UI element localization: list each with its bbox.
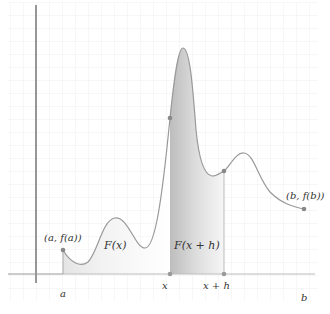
tick-label-xh: x + h bbox=[203, 280, 230, 291]
label-region-right: F(x + h) bbox=[173, 239, 220, 252]
integral-diagram: (a, f(a)) (b, f(b)) F(x) F(x + h) a x x … bbox=[0, 0, 330, 314]
point-a bbox=[61, 248, 66, 253]
tick-label-a: a bbox=[60, 288, 66, 299]
label-region-left: F(x) bbox=[103, 239, 126, 252]
label-end-point: (b, f(b)) bbox=[286, 190, 325, 201]
point-x-axis bbox=[168, 272, 173, 277]
point-xh-curve bbox=[222, 169, 227, 174]
tick-label-x: x bbox=[162, 280, 168, 291]
label-start-point: (a, f(a)) bbox=[44, 232, 82, 243]
point-x-curve bbox=[168, 116, 173, 121]
tick-label-b: b bbox=[301, 292, 307, 303]
point-b bbox=[302, 207, 307, 212]
point-xh-axis bbox=[222, 272, 227, 277]
